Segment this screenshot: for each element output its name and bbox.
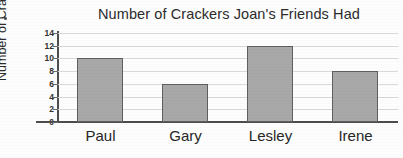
y-axis-tick-mark: [53, 97, 58, 98]
gridline: [58, 33, 398, 34]
y-axis-tick-label: 10: [38, 54, 54, 63]
y-axis-tick-mark: [53, 84, 58, 85]
y-axis-tick-label: 4: [38, 93, 54, 102]
x-axis-category-label: Gary: [143, 127, 228, 144]
y-axis-tick-label: 14: [38, 29, 54, 38]
y-axis-tick-mark: [53, 109, 58, 110]
y-axis-tick-mark: [53, 71, 58, 72]
y-axis-tick-label: 6: [38, 80, 54, 89]
bar: [247, 46, 293, 122]
x-axis-category-label: Lesley: [228, 127, 313, 144]
y-axis-tick-label: 2: [38, 105, 54, 114]
y-axis-title: Number of Crackers: [0, 0, 13, 81]
y-axis-tick-label: 8: [38, 67, 54, 76]
y-axis-tick-labels: 02468101214: [36, 33, 54, 122]
gridline: [58, 46, 398, 47]
plot-area: [58, 33, 398, 122]
bar: [77, 58, 123, 122]
chart-page: Number of Crackers Joan's Friends Had Nu…: [0, 0, 403, 158]
bar: [332, 71, 378, 122]
y-axis-tick-mark: [53, 33, 58, 34]
y-axis-tick-mark: [53, 58, 58, 59]
y-axis-tick-mark: [53, 122, 58, 123]
x-axis-category-label: Irene: [313, 127, 398, 144]
bar: [162, 84, 208, 122]
y-axis-tick-mark: [53, 46, 58, 47]
x-axis-category-label: Paul: [58, 127, 143, 144]
y-axis-tick-label: 12: [38, 42, 54, 51]
chart-title: Number of Crackers Joan's Friends Had: [60, 6, 398, 22]
